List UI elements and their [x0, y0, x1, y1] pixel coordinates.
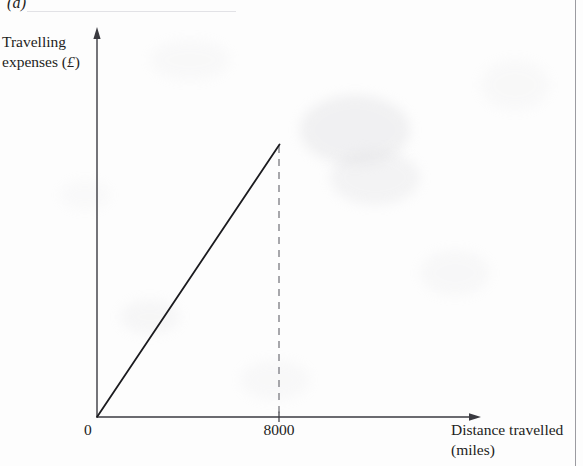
plotted-line: [97, 145, 280, 418]
plot-area: [0, 0, 583, 466]
x-axis-label-line1: Distance travelled: [451, 420, 563, 440]
y-axis-label-line2-text: expenses (: [2, 53, 67, 70]
y-axis-label-line2: expenses (£): [2, 52, 80, 72]
y-axis: [93, 27, 100, 417]
origin-label: 0: [84, 421, 92, 439]
x-axis-label-line2: (miles): [451, 440, 563, 460]
x-axis: [97, 413, 481, 420]
y-axis-label-line1: Travelling: [2, 32, 80, 52]
y-axis-label: Travelling expenses (£): [2, 32, 80, 72]
pound-sign-symbol: £: [67, 53, 75, 70]
graph-figure: (d) Travelling expenses (£) Distance tra…: [0, 0, 583, 466]
x-axis-label: Distance travelled (miles): [451, 420, 563, 460]
y-axis-label-line2-close: ): [75, 53, 80, 70]
x-axis-tick-label-8000: 8000: [249, 421, 309, 439]
